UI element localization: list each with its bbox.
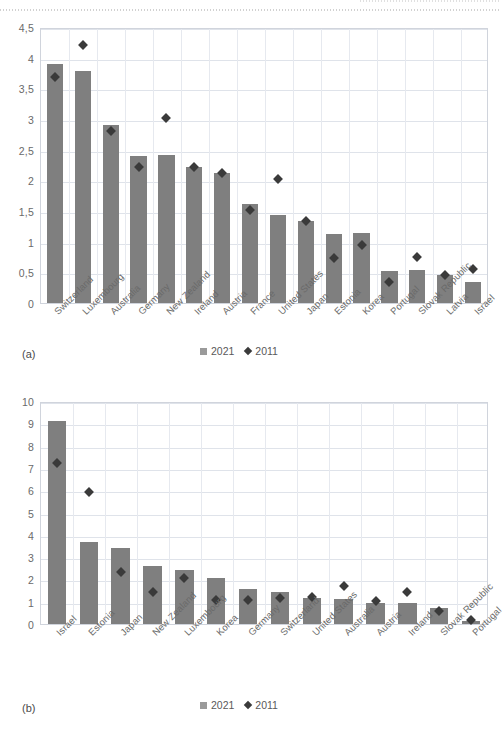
- bar-slot[interactable]: [180, 29, 208, 303]
- legend-label-2011-b: 2011: [255, 699, 278, 711]
- x-axis-labels-b: IsraelEstoniaJapanNew ZealandLuxembourgK…: [40, 628, 488, 629]
- y-tick-label: 1: [28, 597, 34, 609]
- y-tick-label: 5: [28, 508, 34, 520]
- bar-2021[interactable]: [80, 542, 98, 625]
- bar-slot[interactable]: [292, 29, 320, 303]
- x-label-slot: Japan: [292, 307, 320, 308]
- bar-slot[interactable]: [41, 403, 73, 624]
- x-label-slot: Slovak Republic: [424, 628, 456, 629]
- bar-slot[interactable]: [125, 29, 153, 303]
- bar-slot[interactable]: [69, 29, 97, 303]
- x-label-slot: Luxembourg: [68, 307, 96, 308]
- square-marker-icon: [200, 348, 207, 355]
- y-tick-label: 3: [28, 114, 34, 126]
- scan-artifact-line-top: [360, 0, 499, 2]
- bar-slot[interactable]: [348, 29, 376, 303]
- bar-slot[interactable]: [391, 403, 423, 624]
- x-label-slot: Ireland: [180, 307, 208, 308]
- bar-slot[interactable]: [236, 29, 264, 303]
- y-tick-label: 10: [22, 396, 34, 408]
- chart-panel-a: 00,511,522,533,544,5 SwitzerlandLuxembou…: [0, 18, 499, 363]
- bar-slot[interactable]: [105, 403, 137, 624]
- x-label-slot: Austria: [360, 628, 392, 629]
- x-label-slot: Estonia: [320, 307, 348, 308]
- x-label-slot: United States: [264, 307, 292, 308]
- bar-slot[interactable]: [320, 29, 348, 303]
- x-label-slot: Korea: [348, 307, 376, 308]
- x-label-slot: Korea: [200, 628, 232, 629]
- bar-2021[interactable]: [48, 421, 66, 624]
- x-label-slot: Australia: [96, 307, 124, 308]
- legend-label-2021-b: 2021: [211, 699, 234, 711]
- panel-label-b: (b): [22, 702, 35, 714]
- bar-2021[interactable]: [75, 71, 91, 303]
- bar-slot[interactable]: [264, 403, 296, 624]
- plot-area-a: [40, 28, 488, 304]
- bar-slot[interactable]: [376, 29, 404, 303]
- x-label-slot: Israel: [460, 307, 488, 308]
- bar-2021[interactable]: [47, 64, 63, 303]
- bar-slot[interactable]: [208, 29, 236, 303]
- legend-a: 2021 2011: [200, 345, 278, 357]
- bar-slot[interactable]: [97, 29, 125, 303]
- chart-panel-b: 012345678910 IsraelEstoniaJapanNew Zeala…: [0, 392, 499, 722]
- square-marker-icon: [200, 702, 207, 709]
- legend-item-2011-b: 2011: [245, 699, 278, 711]
- y-tick-label: 1: [28, 237, 34, 249]
- plot-area-b: [40, 402, 488, 625]
- bar-2021[interactable]: [214, 173, 230, 303]
- x-label-slot: Germany: [124, 307, 152, 308]
- diamond-2011[interactable]: [412, 252, 422, 262]
- y-tick-label: 3: [28, 552, 34, 564]
- bar-slot[interactable]: [431, 29, 459, 303]
- x-label-slot: New Zealand: [152, 307, 180, 308]
- panel-label-a: (a): [22, 348, 35, 360]
- y-tick-label: 4: [28, 53, 34, 65]
- bar-2021[interactable]: [242, 204, 258, 303]
- bar-series-a: [41, 29, 487, 303]
- bar-slot[interactable]: [328, 403, 360, 624]
- diamond-2011[interactable]: [84, 487, 94, 497]
- y-tick-label: 2: [28, 175, 34, 187]
- x-label-slot: New Zealand: [136, 628, 168, 629]
- diamond-2011[interactable]: [78, 40, 88, 50]
- y-tick-label: 7: [28, 463, 34, 475]
- y-tick-label: 6: [28, 485, 34, 497]
- x-label-slot: Australia: [328, 628, 360, 629]
- bar-slot[interactable]: [423, 403, 455, 624]
- y-tick-label: 0: [28, 619, 34, 631]
- y-tick-label: 3,5: [19, 83, 34, 95]
- x-label-slot: Switzerland: [264, 628, 296, 629]
- bar-2021[interactable]: [326, 234, 342, 303]
- bar-2021[interactable]: [158, 155, 174, 303]
- diamond-2011[interactable]: [339, 581, 349, 591]
- diamond-2011[interactable]: [273, 174, 283, 184]
- y-tick-label: 2,5: [19, 145, 34, 157]
- bar-slot[interactable]: [41, 29, 69, 303]
- diamond-2011[interactable]: [161, 113, 171, 123]
- legend-label-2021-a: 2021: [211, 345, 234, 357]
- bar-slot[interactable]: [403, 29, 431, 303]
- bar-slot[interactable]: [73, 403, 105, 624]
- x-label-slot: Portugal: [376, 307, 404, 308]
- legend-b: 2021 2011: [200, 699, 278, 711]
- x-label-slot: France: [236, 307, 264, 308]
- diamond-marker-icon: [244, 347, 252, 355]
- bar-slot[interactable]: [232, 403, 264, 624]
- bar-slot[interactable]: [360, 403, 392, 624]
- bar-slot[interactable]: [200, 403, 232, 624]
- x-label-slot: Slovak Republic: [404, 307, 432, 308]
- x-axis-labels-a: SwitzerlandLuxembourgAustraliaGermanyNew…: [40, 307, 488, 308]
- bar-slot[interactable]: [137, 403, 169, 624]
- bar-slot[interactable]: [296, 403, 328, 624]
- bar-slot[interactable]: [264, 29, 292, 303]
- bar-slot[interactable]: [153, 29, 181, 303]
- diamond-marker-icon: [244, 701, 252, 709]
- y-tick-label: 4,5: [19, 22, 34, 34]
- x-label-slot: Ireland: [392, 628, 424, 629]
- x-label-slot: Latvia: [432, 307, 460, 308]
- bar-slot[interactable]: [168, 403, 200, 624]
- bar-2021[interactable]: [130, 156, 146, 303]
- bar-series-b: [41, 403, 487, 624]
- diamond-2011[interactable]: [402, 587, 412, 597]
